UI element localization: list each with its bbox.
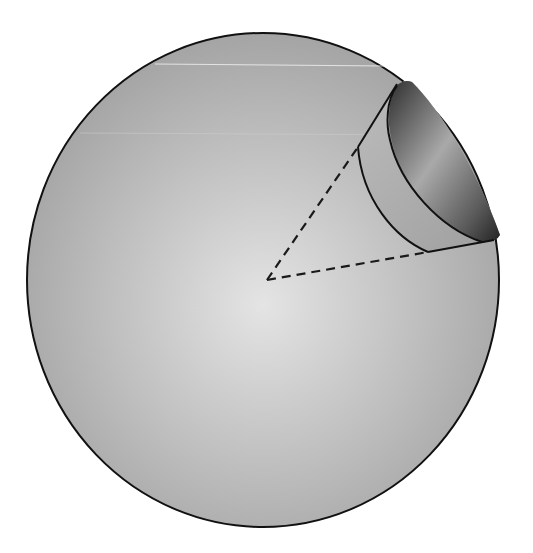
sphere-cone-diagram <box>0 0 533 553</box>
diagram-canvas <box>0 0 533 553</box>
